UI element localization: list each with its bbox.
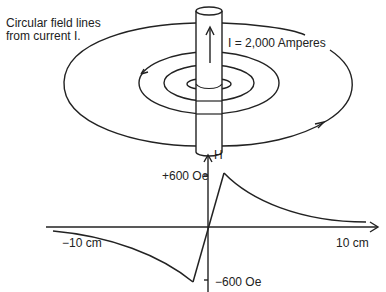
diagram-title: Circular field lines from current I. xyxy=(6,17,101,43)
current-label: I = 2,000 Amperes xyxy=(228,37,326,50)
field-diagram xyxy=(0,0,386,292)
x-tick-label-neg: −10 cm xyxy=(62,237,102,250)
title-line-2: from current I. xyxy=(6,30,101,43)
h-axis-label: H xyxy=(214,149,223,162)
field-line-outer-right xyxy=(222,50,352,146)
x-tick-label-pos: 10 cm xyxy=(336,237,369,250)
y-tick-label-neg: −600 Oe xyxy=(215,276,261,289)
y-tick-label-pos: +600 Oe xyxy=(162,170,208,183)
field-line-outer-right-top xyxy=(222,23,305,35)
